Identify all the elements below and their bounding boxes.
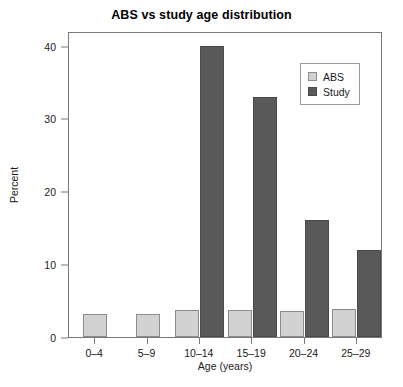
bar-chart: ABS vs study age distribution Percent 01… — [0, 0, 403, 387]
x-tick-label: 15–19 — [237, 347, 266, 359]
x-axis: 0–45–910–1415–1920–2425–29 — [68, 338, 382, 360]
bar-study-15-19 — [253, 97, 277, 337]
chart-title: ABS vs study age distribution — [0, 8, 403, 22]
legend-swatch-study-icon — [308, 87, 317, 96]
bar-abs-10-14 — [175, 310, 199, 337]
legend-item-abs: ABS — [308, 69, 350, 84]
bar-study-10-14 — [200, 46, 224, 337]
bar-abs-25-29 — [332, 309, 356, 337]
bar-abs-20-24 — [280, 311, 304, 337]
x-tick-mark — [147, 338, 148, 344]
x-tick-label: 25–29 — [341, 347, 370, 359]
y-tick-label: 40 — [44, 41, 56, 53]
y-tick-mark — [61, 265, 68, 266]
y-tick-label: 10 — [44, 259, 56, 271]
x-tick-mark — [304, 338, 305, 344]
legend-swatch-abs-icon — [308, 72, 317, 81]
bar-study-20-24 — [305, 220, 329, 337]
x-tick-mark — [199, 338, 200, 344]
legend-item-study: Study — [308, 84, 350, 99]
x-tick-label: 5–9 — [138, 347, 156, 359]
y-tick-mark — [61, 119, 68, 120]
bar-abs-5-9 — [136, 314, 160, 337]
bar-study-25-29 — [357, 250, 381, 337]
y-tick-mark — [61, 192, 68, 193]
legend-label-study: Study — [323, 86, 350, 98]
x-tick-label: 10–14 — [184, 347, 213, 359]
x-tick-label: 0–4 — [85, 347, 103, 359]
y-axis: 010203040 — [0, 32, 68, 338]
x-tick-mark — [356, 338, 357, 344]
x-tick-mark — [251, 338, 252, 344]
y-tick-mark — [61, 338, 68, 339]
y-tick-mark — [61, 46, 68, 47]
legend-label-abs: ABS — [323, 71, 344, 83]
y-tick-label: 0 — [50, 332, 56, 344]
x-tick-mark — [94, 338, 95, 344]
bar-abs-0-4 — [83, 314, 107, 337]
chart-legend: ABS Study — [300, 63, 360, 105]
x-tick-label: 20–24 — [289, 347, 318, 359]
y-tick-label: 20 — [44, 186, 56, 198]
y-tick-label: 30 — [44, 113, 56, 125]
x-axis-title: Age (years) — [68, 360, 382, 372]
bar-abs-15-19 — [228, 310, 252, 337]
